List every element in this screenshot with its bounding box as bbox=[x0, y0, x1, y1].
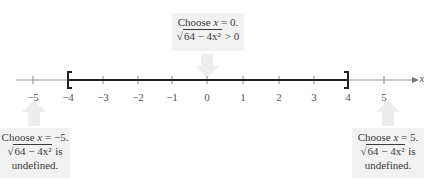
tick-label: −2 bbox=[132, 91, 144, 103]
callout-center: Choose x = 0. √64 − 4x² > 0 bbox=[172, 13, 244, 51]
tick-label: 5 bbox=[381, 91, 387, 103]
arrow-center bbox=[195, 54, 219, 78]
tick-label: −1 bbox=[166, 91, 178, 103]
tick-label: 3 bbox=[311, 91, 317, 103]
arrow-right bbox=[376, 100, 400, 126]
tick-label: 0 bbox=[204, 91, 210, 103]
callout-right: Choose x = 5. √64 − 4x² is undefined. bbox=[352, 128, 424, 178]
tick-label: 1 bbox=[240, 91, 246, 103]
axis-label: x bbox=[420, 72, 424, 84]
tick-label: −5 bbox=[27, 91, 39, 103]
tick-label: −3 bbox=[97, 91, 109, 103]
tick-label: 4 bbox=[345, 91, 351, 103]
tick-label: −4 bbox=[62, 91, 74, 103]
callout-left: Choose x = −5. √64 − 4x² is undefined. bbox=[0, 128, 70, 178]
arrow-left bbox=[22, 100, 46, 126]
tick-label: 2 bbox=[276, 91, 282, 103]
